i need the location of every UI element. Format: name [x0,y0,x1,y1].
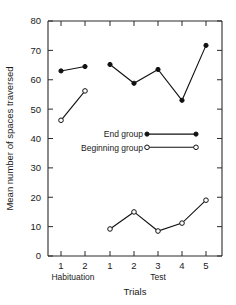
series-line [110,45,206,100]
data-point-filled [132,81,136,85]
data-point-open [180,221,185,226]
phase-label-test: Test [150,272,166,282]
y-tick-label: 50 [30,104,41,115]
data-point-open [108,227,113,232]
x-tick-label: 3 [155,260,160,271]
series-line [61,91,85,120]
y-tick-label: 60 [30,74,41,85]
y-tick-label: 30 [30,162,41,173]
x-tick-label: 1 [107,260,112,271]
x-axis-title: Trials [124,286,147,297]
y-tick-label: 0 [36,250,41,261]
phase-label-habituation: Habituation [51,272,94,282]
x-tick-label: 2 [131,260,136,271]
data-point-filled [180,98,184,102]
legend-label: End group [104,129,143,139]
data-point-open [132,210,137,215]
data-point-open [156,229,161,234]
data-point-filled [204,43,208,47]
x-tick-label: 5 [203,260,208,271]
legend-marker-open [145,145,150,150]
y-tick-label: 10 [30,221,41,232]
x-tick-label: 1 [58,260,63,271]
x-tick-label: 2 [82,260,87,271]
legend-marker-open [194,145,199,150]
chart-figure: 010203040506070801212345HabituationTestT… [0,0,236,305]
series-line [61,67,85,71]
data-point-filled [83,64,87,68]
data-point-open [83,89,88,94]
legend-marker-filled [145,132,149,136]
x-tick-label: 4 [179,260,184,271]
y-axis-title: Mean number of spaces traversed [4,66,15,210]
line-chart: 010203040506070801212345HabituationTestT… [0,0,236,305]
y-tick-label: 20 [30,192,41,203]
y-tick-label: 70 [30,45,41,56]
data-point-filled [59,69,63,73]
data-point-filled [108,62,112,66]
y-tick-label: 40 [30,133,41,144]
data-point-filled [156,67,160,71]
series-line [110,200,206,231]
data-point-open [59,118,64,123]
y-tick-label: 80 [30,15,41,26]
legend-label: Beginning group [81,143,143,153]
legend-marker-filled [194,132,198,136]
data-point-open [204,198,209,203]
